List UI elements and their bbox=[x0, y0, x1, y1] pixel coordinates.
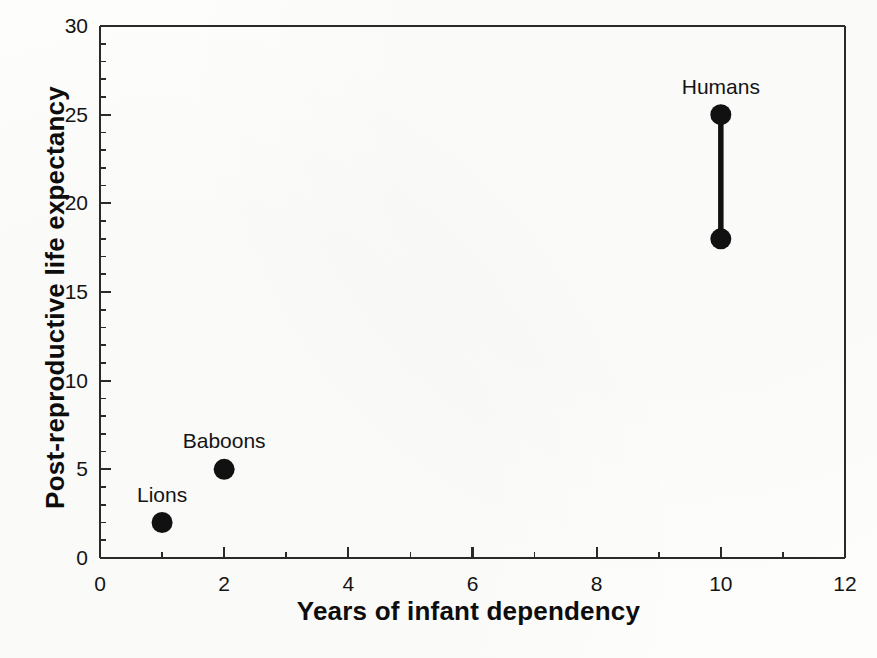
plot-frame bbox=[100, 26, 845, 558]
data-point-marker bbox=[710, 104, 731, 125]
y-axis-ticks bbox=[100, 26, 111, 558]
x-tick-label-2: 2 bbox=[218, 572, 230, 596]
y-axis-title: Post-reproductive life expectancy bbox=[40, 38, 71, 558]
x-tick-label-6: 6 bbox=[467, 572, 479, 596]
x-tick-label-0: 0 bbox=[94, 572, 106, 596]
data-point-marker bbox=[710, 228, 731, 249]
x-tick-label-12: 12 bbox=[833, 572, 856, 596]
point-label-baboons: Baboons bbox=[183, 429, 266, 453]
y-tick-label-30: 30 bbox=[42, 14, 88, 38]
x-tick-label-4: 4 bbox=[342, 572, 354, 596]
figure-container: 024681012 051015202530 LionsBaboonsHuman… bbox=[0, 0, 877, 658]
data-markers bbox=[152, 104, 732, 533]
scatter-plot-canvas bbox=[0, 0, 877, 658]
data-point-marker bbox=[214, 459, 235, 480]
data-point-marker bbox=[152, 512, 173, 533]
x-axis-ticks bbox=[100, 547, 845, 558]
point-label-lions: Lions bbox=[137, 483, 187, 507]
point-label-humans: Humans bbox=[682, 75, 760, 99]
x-tick-label-8: 8 bbox=[591, 572, 603, 596]
caption-strip bbox=[0, 642, 877, 658]
x-axis-title: Years of infant dependency bbox=[60, 596, 877, 627]
x-tick-label-10: 10 bbox=[709, 572, 732, 596]
